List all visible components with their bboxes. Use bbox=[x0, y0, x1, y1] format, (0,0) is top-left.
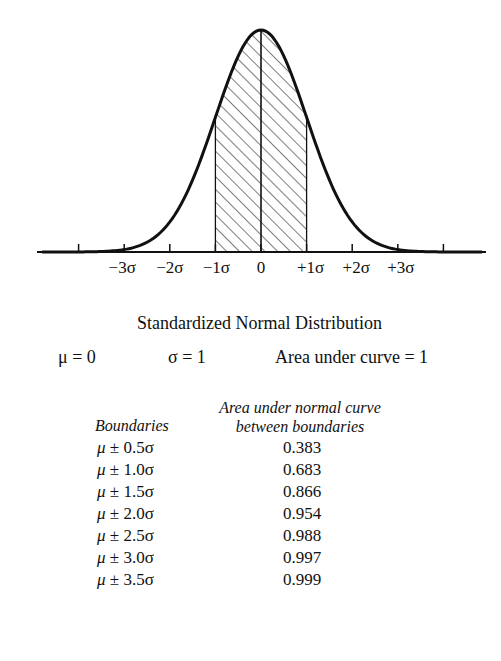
mu-symbol: μ bbox=[97, 504, 106, 523]
mu-symbol: μ bbox=[97, 438, 106, 457]
area-cell: 0.954 bbox=[272, 504, 332, 524]
boundary-cell: μ ± 3.5σ bbox=[97, 570, 154, 590]
boundary-range: ± 2.5σ bbox=[106, 526, 154, 545]
x-tick-label: +2σ bbox=[343, 258, 370, 277]
x-tick-label: +3σ bbox=[387, 258, 414, 277]
boundary-cell: μ ± 2.0σ bbox=[97, 504, 154, 524]
header-boundaries: Boundaries bbox=[95, 417, 169, 435]
mu-symbol: μ bbox=[97, 482, 106, 501]
x-tick-label: −2σ bbox=[156, 258, 183, 277]
boundary-range: ± 1.0σ bbox=[106, 460, 154, 479]
boundary-range: ± 0.5σ bbox=[106, 438, 154, 457]
table-row: μ ± 0.5σ0.383 bbox=[0, 438, 501, 460]
boundary-cell: μ ± 3.0σ bbox=[97, 548, 154, 568]
x-tick-label: 0 bbox=[257, 258, 266, 277]
boundary-range: ± 2.0σ bbox=[106, 504, 154, 523]
mu-symbol: μ bbox=[97, 570, 106, 589]
boundary-range: ± 3.5σ bbox=[106, 570, 154, 589]
area-cell: 0.997 bbox=[272, 548, 332, 568]
area-cell: 0.683 bbox=[272, 460, 332, 480]
boundary-cell: μ ± 2.5σ bbox=[97, 526, 154, 546]
area-cell: 0.988 bbox=[272, 526, 332, 546]
x-axis-tick-labels: −3σ−2σ−1σ0+1σ+2σ+3σ bbox=[109, 258, 415, 277]
boundary-range: ± 1.5σ bbox=[106, 482, 154, 501]
table-row: μ ± 1.5σ0.866 bbox=[0, 482, 501, 504]
x-tick-label: −1σ bbox=[203, 258, 230, 277]
shaded-region bbox=[215, 28, 306, 252]
boundary-range: ± 3.0σ bbox=[106, 548, 154, 567]
param-area: Area under curve = 1 bbox=[275, 347, 428, 368]
boundary-cell: μ ± 0.5σ bbox=[97, 438, 154, 458]
param-sigma: σ = 1 bbox=[168, 347, 206, 368]
area-cell: 0.866 bbox=[272, 482, 332, 502]
boundary-cell: μ ± 1.0σ bbox=[97, 460, 154, 480]
table-row: μ ± 2.5σ0.988 bbox=[0, 526, 501, 548]
param-mu: μ = 0 bbox=[58, 347, 96, 368]
normal-curve-chart: −3σ−2σ−1σ0+1σ+2σ+3σ bbox=[0, 0, 501, 290]
boundary-cell: μ ± 1.5σ bbox=[97, 482, 154, 502]
area-cell: 0.999 bbox=[272, 570, 332, 590]
table-row: μ ± 1.0σ0.683 bbox=[0, 460, 501, 482]
x-tick-label: +1σ bbox=[297, 258, 324, 277]
table-row: μ ± 3.0σ0.997 bbox=[0, 548, 501, 570]
table-row: μ ± 2.0σ0.954 bbox=[0, 504, 501, 526]
mu-symbol: μ bbox=[97, 526, 106, 545]
header-area-line2: between boundaries bbox=[200, 417, 400, 436]
header-area-line1: Area under normal curve bbox=[200, 398, 400, 417]
table-row: μ ± 3.5σ0.999 bbox=[0, 570, 501, 592]
mu-symbol: μ bbox=[97, 460, 106, 479]
area-cell: 0.383 bbox=[272, 438, 332, 458]
mu-symbol: μ bbox=[97, 548, 106, 567]
chart-title: Standardized Normal Distribution bbox=[0, 313, 501, 334]
x-tick-label: −3σ bbox=[109, 258, 136, 277]
